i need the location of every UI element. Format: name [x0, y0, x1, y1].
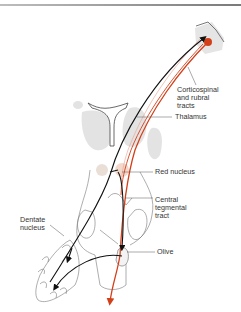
red-nucleus-tint: [96, 164, 108, 176]
thalamus-structure: [73, 101, 162, 159]
label-thalamus: Thalamus: [175, 113, 207, 121]
label-central-tegmental-tract: Central tegmental tract: [155, 196, 187, 220]
motor-cortex: [195, 22, 224, 54]
label-olive: Olive: [157, 248, 173, 256]
brainstem-outline: [36, 170, 153, 302]
label-red-nucleus: Red nucleus: [155, 168, 195, 176]
cerebellar-pathway-diagram: [0, 0, 241, 312]
label-dentate-nucleus: Dentate nucleus: [20, 216, 45, 232]
label-corticospinal-rubral: Corticospinal and rubral tracts: [177, 86, 219, 110]
